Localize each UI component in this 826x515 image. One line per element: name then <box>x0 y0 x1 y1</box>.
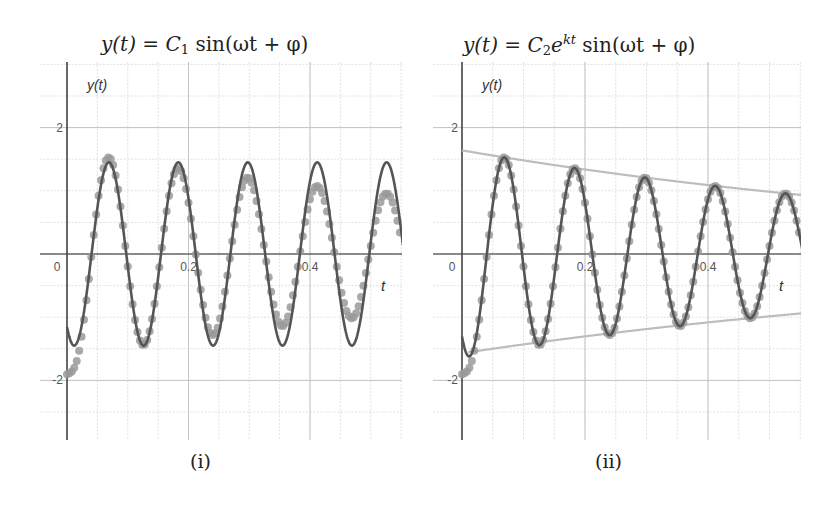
y-tick-label: -2 <box>447 373 458 387</box>
y-tick-label: 2 <box>56 121 63 135</box>
chart-i: 00.20.42-2y(t)t <box>40 62 404 440</box>
y-axis-label: y(t) <box>481 77 502 93</box>
data-points <box>458 153 803 378</box>
y-tick-label: -2 <box>52 373 63 387</box>
x-tick-label: 0.4 <box>700 260 717 274</box>
y-axis-label: y(t) <box>86 77 107 93</box>
gridlines <box>40 62 402 440</box>
x-axis-label: t <box>381 277 386 294</box>
x-tick-label: 0 <box>54 260 61 274</box>
y-tick-label: 2 <box>451 121 458 135</box>
x-tick-label: 0.4 <box>302 260 319 274</box>
x-tick-label: 0 <box>449 260 456 274</box>
chart-ii: 00.20.42-2y(t)t <box>433 62 803 440</box>
plot-canvas: 00.20.42-2y(t)t00.20.42-2y(t)t <box>0 0 826 515</box>
fit-curve <box>462 157 802 356</box>
